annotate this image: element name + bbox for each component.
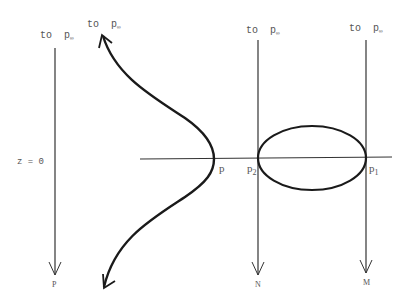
- label-point-p: p: [219, 163, 225, 174]
- left-vertical-arrow: [49, 48, 61, 275]
- label-point-p1: p1: [369, 163, 379, 177]
- label-point-p2: p2: [247, 163, 257, 177]
- label-end-P: P: [52, 280, 56, 289]
- label-to-p-infinity-left: to p∞: [40, 31, 74, 42]
- label-z-equals-0: z = 0: [17, 158, 44, 167]
- label-end-M: M: [363, 278, 370, 287]
- z-axis-line: [140, 157, 392, 159]
- diagram-canvas: [0, 0, 412, 305]
- label-to-p-infinity-curve: to p∞: [87, 20, 121, 31]
- curve-through-p: [99, 35, 214, 288]
- label-end-N: N: [255, 280, 261, 289]
- label-to-p-infinity-m: to p∞: [349, 24, 383, 35]
- label-to-p-infinity-n: to p∞: [246, 26, 280, 37]
